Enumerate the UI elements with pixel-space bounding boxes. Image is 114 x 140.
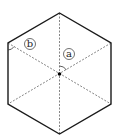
- label-a: a: [64, 48, 75, 59]
- hexagon-figure: a b: [0, 0, 114, 140]
- angle-b-arc: [8, 47, 14, 50]
- label-b: b: [25, 38, 36, 49]
- label-b-text: b: [27, 38, 33, 49]
- center-point: [58, 72, 62, 76]
- label-a-text: a: [66, 48, 72, 59]
- angle-a-arc: [60, 66, 67, 70]
- hexagon-diagram: a b: [0, 0, 114, 140]
